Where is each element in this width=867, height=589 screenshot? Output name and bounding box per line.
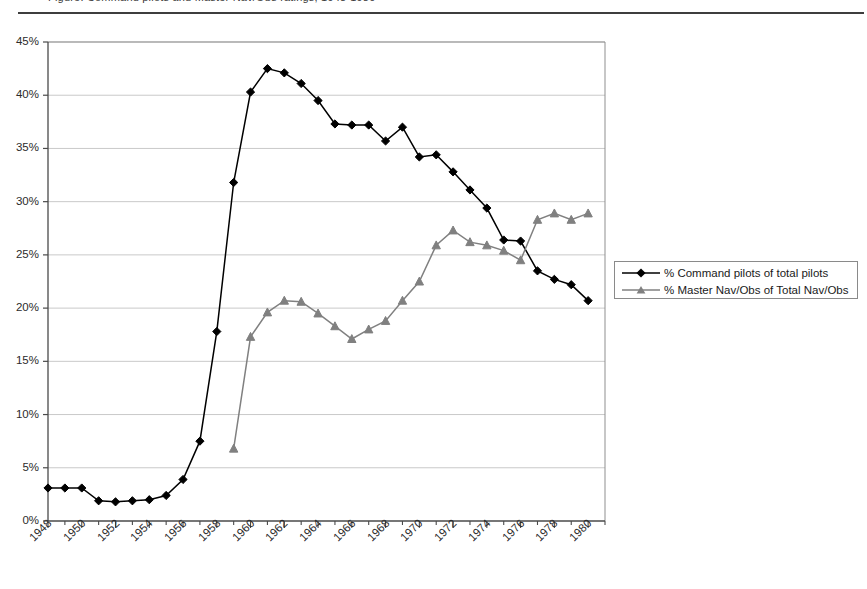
y-axis-tick: 5%	[0, 461, 39, 473]
legend-item-command-pilots: % Command pilots of total pilots	[621, 264, 828, 281]
legend-marker-triangle-icon	[621, 283, 661, 297]
legend-label-command-pilots: % Command pilots of total pilots	[664, 267, 828, 279]
y-axis-tick: 15%	[0, 354, 39, 366]
y-axis-tick: 25%	[0, 248, 39, 260]
legend-item-master-nav-obs: % Master Nav/Obs of Total Nav/Obs	[621, 281, 849, 298]
y-axis-tick: 40%	[0, 88, 39, 100]
chart-figure: Figure: Command pilots and Master Nav/Ob…	[0, 0, 867, 589]
y-axis-tick: 45%	[0, 35, 39, 47]
legend-label-master-nav-obs: % Master Nav/Obs of Total Nav/Obs	[664, 284, 849, 296]
y-axis-tick: 20%	[0, 301, 39, 313]
y-axis-tick: 35%	[0, 141, 39, 153]
y-axis-tick: 10%	[0, 408, 39, 420]
y-axis-tick: 30%	[0, 195, 39, 207]
chart-legend: % Command pilots of total pilots % Maste…	[614, 261, 858, 299]
legend-marker-diamond-icon	[621, 266, 661, 280]
y-axis-tick: 0%	[0, 514, 39, 526]
